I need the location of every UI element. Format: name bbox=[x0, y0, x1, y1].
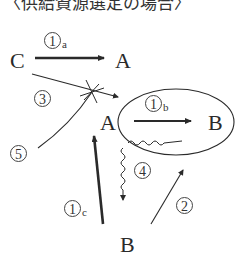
diagram-lines bbox=[0, 0, 238, 255]
node-a-mid: A bbox=[100, 112, 116, 134]
arrow-1c bbox=[94, 136, 103, 224]
circled-number: 2 bbox=[176, 197, 193, 214]
label-1b: 1b bbox=[145, 94, 169, 113]
label-subscript: c bbox=[82, 206, 87, 218]
node-b-mid: B bbox=[208, 112, 223, 134]
label-4: 4 bbox=[134, 161, 151, 179]
diagram: 〈供給資源選定の場合〉 bbox=[0, 0, 238, 255]
label-3: 3 bbox=[34, 89, 51, 107]
label-1a: 1a bbox=[44, 31, 67, 50]
label-2: 2 bbox=[176, 196, 193, 214]
wavy-line-horizontal bbox=[128, 141, 182, 145]
block-mark bbox=[80, 80, 104, 103]
circled-number: 3 bbox=[34, 90, 51, 107]
circled-number: 1 bbox=[64, 200, 81, 217]
circled-number: 1 bbox=[145, 95, 162, 112]
node-b-bottom: B bbox=[120, 234, 135, 255]
circled-number: 4 bbox=[134, 162, 151, 179]
label-1c: 1c bbox=[64, 199, 87, 218]
label-subscript: b bbox=[163, 101, 169, 113]
circled-number: 5 bbox=[10, 145, 27, 162]
node-a-top: A bbox=[115, 50, 131, 72]
label-5: 5 bbox=[10, 144, 27, 162]
label-subscript: a bbox=[62, 38, 67, 50]
node-c: C bbox=[10, 50, 25, 72]
circled-number: 1 bbox=[44, 32, 61, 49]
arrow-4 bbox=[121, 148, 125, 200]
